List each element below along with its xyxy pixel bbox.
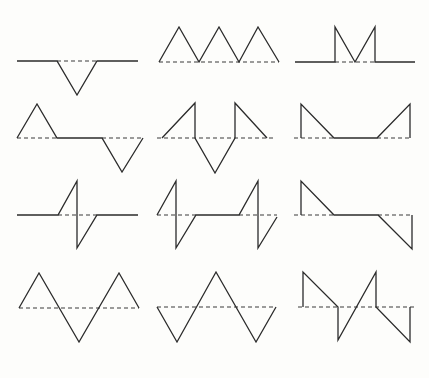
background <box>0 0 429 378</box>
waveform-diagram <box>0 0 429 378</box>
